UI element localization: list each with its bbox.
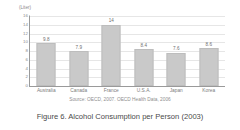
x-axis-category-label: Japan [170,88,183,94]
bar[interactable] [134,49,153,86]
bar-group: 9.8Australia [30,16,63,86]
y-tick-label: 14 [23,23,28,27]
x-axis-category-label: Australia [37,88,56,94]
bar[interactable] [37,43,56,86]
x-axis-category-label: U.S.A. [137,88,151,94]
x-axis-category-label: Korea [202,88,215,94]
bar-group: 7.6Japan [160,16,193,86]
plot-area: 0246810121416 9.8Australia7.9Canada14Fra… [29,16,225,87]
bar-group: 8.6Korea [193,16,226,86]
bar-value-label: 8.6 [206,42,212,47]
y-tick-label: 0 [26,84,28,88]
bar[interactable] [69,51,88,86]
x-axis-category-label: Canada [70,88,87,94]
bar-group: 7.9Canada [63,16,96,86]
source-note: Source: OECD, 2007. OECD Health Data, 20… [0,97,240,103]
y-tick-label: 12 [23,31,28,35]
x-axis-category-label: France [104,88,119,94]
figure-caption: Figure 6. Alcohol Consumption per Person… [0,112,240,122]
y-tick-label: 4 [26,66,28,70]
bar[interactable] [199,48,218,86]
bar-value-label: 9.8 [43,37,49,42]
y-tick-label: 16 [23,14,28,18]
bar-chart: (Liter) 0246810121416 9.8Australia7.9Can… [0,0,240,95]
bar-value-label: 7.6 [173,46,179,51]
bar[interactable] [167,53,186,86]
bar-value-label: 14 [109,18,114,23]
figure-container: (Liter) 0246810121416 9.8Australia7.9Can… [0,0,240,130]
bar-value-label: 7.9 [76,45,82,50]
bar-group: 8.4U.S.A. [128,16,161,86]
y-axis-unit-label: (Liter) [19,5,31,10]
y-tick-label: 10 [23,40,28,44]
bars-group: 9.8Australia7.9Canada14France8.4U.S.A.7.… [30,16,225,86]
bar[interactable] [102,25,121,86]
bar-group: 14France [95,16,128,86]
bar-value-label: 8.4 [141,43,147,48]
y-tick-label: 6 [26,58,28,62]
y-tick-label: 8 [26,49,28,53]
y-tick-label: 2 [26,75,28,79]
